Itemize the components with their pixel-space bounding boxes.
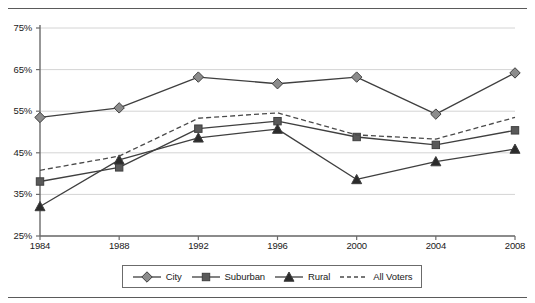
x-axis-label: 1988 [99, 240, 139, 251]
legend-label: Suburban [225, 271, 265, 282]
x-axis-label: 2000 [337, 240, 377, 251]
legend-item-rural[interactable]: Rural [274, 271, 330, 283]
x-axis-label: 2004 [416, 240, 456, 251]
y-axis-label: 35% [2, 188, 32, 199]
square-marker-icon [191, 271, 221, 283]
x-axis-label: 1996 [258, 240, 298, 251]
legend-label: All Voters [373, 271, 412, 282]
y-axis-label: 75% [2, 22, 32, 33]
triangle-marker-icon [35, 201, 45, 210]
square-marker-icon [432, 141, 439, 148]
x-axis-label: 1992 [178, 240, 218, 251]
triangle-marker-icon [510, 144, 520, 153]
diamond-marker-icon [132, 271, 162, 283]
diamond-marker-icon [141, 271, 151, 281]
square-marker-icon [36, 178, 43, 185]
square-marker-icon [511, 127, 518, 134]
x-axis-label: 1984 [20, 240, 60, 251]
diamond-marker-icon [35, 112, 45, 122]
bottom-horizontal-rule [8, 297, 527, 298]
square-marker-icon [195, 125, 202, 132]
legend-label: Rural [308, 271, 330, 282]
legend-item-suburban[interactable]: Suburban [191, 271, 265, 283]
diamond-marker-icon [193, 72, 203, 82]
legend-item-city[interactable]: City [132, 271, 182, 283]
dashed-line-icon [339, 271, 369, 283]
triangle-marker-icon [273, 124, 283, 133]
chart-page: 75%65%55%45%35%25% 198419881992199620002… [0, 0, 535, 303]
plot-canvas [0, 0, 535, 260]
legend-item-all-voters[interactable]: All Voters [339, 271, 412, 283]
x-axis-label: 2008 [495, 240, 535, 251]
triangle-marker-icon [274, 271, 304, 283]
line-chart: 75%65%55%45%35%25% 198419881992199620002… [0, 0, 535, 260]
chart-legend: CitySuburbanRuralAll Voters [122, 265, 422, 288]
y-axis-label: 55% [2, 105, 32, 116]
legend-label: City [166, 271, 182, 282]
diamond-marker-icon [431, 109, 441, 119]
diamond-marker-icon [272, 79, 282, 89]
diamond-marker-icon [351, 72, 361, 82]
square-marker-icon [115, 164, 122, 171]
y-axis-label: 65% [2, 64, 32, 75]
y-axis-label: 45% [2, 147, 32, 158]
square-marker-icon [202, 273, 209, 280]
